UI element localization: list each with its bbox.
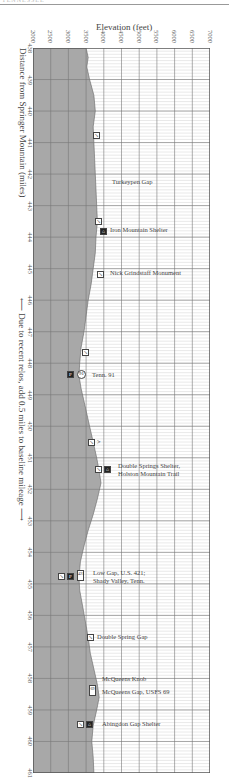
- elevation-tick-label: 6000: [171, 30, 178, 43]
- label-line-1: Double Springs Shelter,: [118, 462, 180, 469]
- label-line-2: Shady Valley, Tenn.: [93, 577, 145, 584]
- sign-icon: ↘: [95, 466, 102, 473]
- label-low-gap: Low Gap, U.S. 421;Shady Valley, Tenn.: [93, 569, 145, 584]
- sign-icon: ↘: [87, 634, 94, 641]
- label-abingdon-gap-shelter: Abingdon Gap Shelter: [102, 720, 161, 728]
- label-double-spring-gap: Double Spring Gap: [97, 633, 148, 641]
- label-tenn-91: Tenn. 91: [92, 371, 115, 379]
- header-text: TENNESSEE: [2, 0, 45, 3]
- road-421-icon: 421: [77, 570, 84, 581]
- parking-icon: P: [67, 371, 74, 378]
- parking-icon: P: [67, 573, 74, 580]
- shelter-icon: ⌂: [100, 228, 107, 235]
- shelter-icon: ⌂: [104, 466, 111, 473]
- sign-icon: ↘: [82, 349, 89, 356]
- elevation-tick-label: 7000: [207, 30, 214, 43]
- relocation-note: ⟵ Due to recent relos, add 0.5 miles to …: [17, 298, 27, 521]
- label-mcqueens-gap: McQueens Gap, USFS 69: [102, 688, 170, 696]
- sign-icon: ↘: [88, 439, 95, 446]
- label-turkeypen-gap: Turkeypen Gap: [112, 178, 152, 186]
- label-line-1: Low Gap, U.S. 421;: [93, 569, 145, 576]
- sign-icon: ↘: [95, 218, 102, 225]
- sign-icon: ↘: [93, 132, 100, 139]
- elevation-tick-label: 4500: [118, 30, 125, 43]
- elevation-tick-label: 5500: [153, 30, 160, 43]
- label-line-2: Holston Mountain Trail: [118, 470, 179, 477]
- elevation-tick-label: 4000: [100, 30, 107, 43]
- label-mcqueens-knob: McQueens Knob: [102, 675, 146, 683]
- view-icon: >: [97, 438, 101, 446]
- road-91-icon: 91: [77, 370, 86, 379]
- elevation-tick-label: 3500: [83, 30, 90, 43]
- label-nick-grindstaff-monument: Nick Grindstaff Monument: [110, 269, 181, 277]
- elevation-tick-label: 5000: [136, 30, 143, 43]
- sign-icon: ↘: [58, 573, 65, 580]
- elevation-profile-plot: [33, 48, 210, 773]
- label-double-springs-shelter: Double Springs Shelter,Holston Mountain …: [118, 462, 180, 477]
- elevation-tick-label: 2500: [47, 30, 54, 43]
- shelter-icon: ⌂: [86, 721, 93, 728]
- sign-icon: ↘: [77, 721, 84, 728]
- elevation-tick-label: 6500: [189, 30, 196, 43]
- sign-icon: ↘: [97, 271, 104, 278]
- road-69-icon: 69: [89, 685, 96, 696]
- label-iron-mountain-shelter: Iron Mountain Shelter: [110, 226, 168, 234]
- header-rule: [0, 4, 229, 5]
- profile-svg: [33, 48, 210, 773]
- elevation-tick-label: 2000: [30, 30, 37, 43]
- elevation-tick-label: 3000: [65, 30, 72, 43]
